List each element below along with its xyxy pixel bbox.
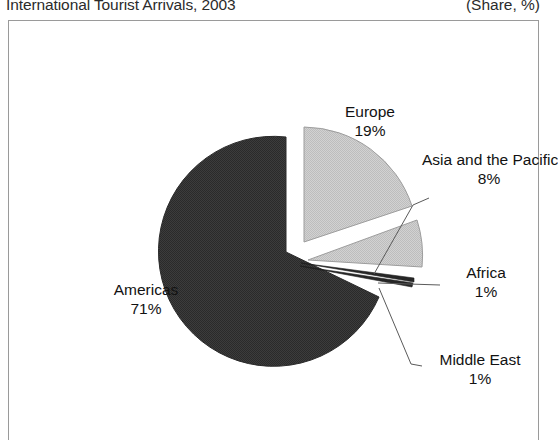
pie-label-middle-east: Middle East 1% — [412, 350, 548, 388]
pie-label-africa-name: Africa — [440, 263, 532, 282]
pie-chart-area: Europe 19% Asia and the Pacific 8% Afric… — [8, 20, 539, 426]
pie-label-europe-value: 19% — [324, 121, 416, 140]
chart-title: International Tourist Arrivals, 2003 — [6, 0, 236, 14]
pie-label-americas-name: Americas — [92, 280, 200, 299]
pie-label-africa: Africa 1% — [440, 263, 532, 301]
pie-label-asia-pacific: Asia and the Pacific 8% — [422, 150, 556, 188]
pie-label-asia-pacific-value: 8% — [422, 169, 556, 188]
pie-label-europe-name: Europe — [324, 102, 416, 121]
pie-label-africa-value: 1% — [440, 282, 532, 301]
pie-label-asia-pacific-name: Asia and the Pacific — [422, 150, 556, 169]
chart-header: International Tourist Arrivals, 2003 (Sh… — [0, 0, 548, 18]
pie-label-americas-value: 71% — [92, 299, 200, 318]
pie-label-europe: Europe 19% — [324, 102, 416, 140]
chart-unit-label: (Share, %) — [466, 0, 540, 14]
pie-label-americas: Americas 71% — [92, 280, 200, 318]
pie-label-middle-east-name: Middle East — [412, 350, 548, 369]
pie-slice-europe[interactable] — [304, 127, 412, 242]
pie-label-middle-east-value: 1% — [412, 369, 548, 388]
